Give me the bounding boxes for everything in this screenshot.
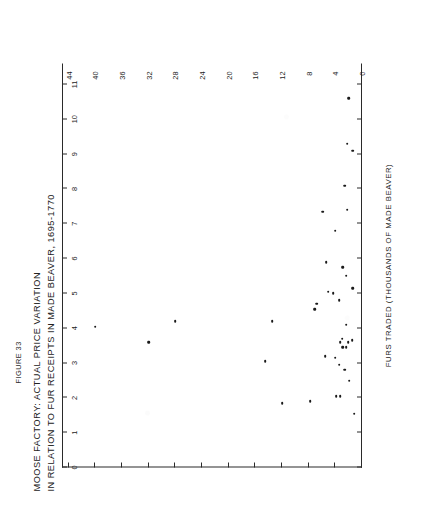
x-axis-line xyxy=(361,63,362,467)
x-tick xyxy=(357,396,362,397)
x-tick-top xyxy=(62,257,67,258)
x-tick-top xyxy=(62,362,67,363)
x-tick-top xyxy=(62,83,67,84)
data-point xyxy=(174,320,176,322)
y-tick-label: 4 xyxy=(331,71,340,75)
x-tick-top xyxy=(62,153,67,154)
scatter-plot: 01234567891011 048121620242832364044 FUR… xyxy=(62,63,362,467)
y-tick xyxy=(68,462,69,467)
y-tick-label: 28 xyxy=(171,71,180,79)
figure-container: FIGURE 33 MOOSE FACTORY: ACTUAL PRICE VA… xyxy=(0,0,434,529)
data-point xyxy=(315,302,317,304)
y-tick xyxy=(254,462,255,467)
data-point xyxy=(264,360,266,362)
data-point xyxy=(346,208,348,210)
y-tick xyxy=(334,462,335,467)
data-point xyxy=(345,274,347,276)
data-point xyxy=(339,394,341,396)
x-tick xyxy=(357,292,362,293)
data-point xyxy=(339,340,341,342)
x-tick-label: 4 xyxy=(70,326,79,330)
y-tick xyxy=(201,462,202,467)
y-tick-label: 20 xyxy=(224,71,233,79)
data-point xyxy=(309,400,311,402)
data-point xyxy=(348,379,350,381)
data-point xyxy=(351,149,353,151)
y-tick xyxy=(228,462,229,467)
y-tick-label: 36 xyxy=(118,71,127,79)
data-point xyxy=(351,286,353,288)
data-point xyxy=(94,325,96,327)
x-tick-label: 5 xyxy=(70,291,79,295)
x-tick-label: 0 xyxy=(70,465,79,469)
x-tick-label: 11 xyxy=(70,80,79,88)
data-point xyxy=(324,354,326,356)
x-tick-label: 7 xyxy=(70,221,79,225)
data-point xyxy=(147,340,149,342)
x-tick xyxy=(357,222,362,223)
data-point xyxy=(353,412,355,414)
figure-number: FIGURE 33 xyxy=(14,51,23,383)
data-point xyxy=(334,356,336,358)
figure-title-line-1: MOOSE FACTORY: ACTUAL PRICE VARIATION xyxy=(30,51,44,491)
y-tick xyxy=(281,462,282,467)
data-point xyxy=(341,266,343,268)
data-point xyxy=(335,394,337,396)
data-point xyxy=(347,97,349,99)
x-tick-top xyxy=(62,431,67,432)
x-tick xyxy=(357,327,362,328)
x-tick-label: 10 xyxy=(70,115,79,123)
data-point xyxy=(346,142,348,144)
data-point xyxy=(351,339,353,341)
data-point xyxy=(334,229,336,231)
y-tick-label: 8 xyxy=(304,71,313,75)
x-tick-top xyxy=(62,187,67,188)
data-point xyxy=(345,346,347,348)
data-point xyxy=(341,346,343,348)
data-point xyxy=(343,368,345,370)
x-tick-top xyxy=(62,327,67,328)
data-point xyxy=(338,299,340,301)
x-tick-label: 8 xyxy=(70,186,79,190)
figure-title-line-2: IN RELATION TO FUR RECEIPTS IN MADE BEAV… xyxy=(44,51,58,491)
y-tick xyxy=(121,462,122,467)
y-tick-label: 0 xyxy=(358,71,367,75)
x-axis-title: FURS TRADED (THOUSANDS OF MADE BEAVER) xyxy=(384,163,393,366)
data-point xyxy=(343,184,345,186)
x-tick-label: 9 xyxy=(70,152,79,156)
top-axis-line xyxy=(62,63,63,467)
x-tick-top xyxy=(62,466,67,467)
y-tick xyxy=(308,462,309,467)
data-point xyxy=(325,260,327,262)
x-tick-label: 1 xyxy=(70,430,79,434)
x-tick xyxy=(357,118,362,119)
x-tick xyxy=(357,153,362,154)
x-tick-top xyxy=(62,222,67,223)
data-point xyxy=(338,363,340,365)
y-tick-label: 12 xyxy=(278,71,287,79)
x-tick xyxy=(357,257,362,258)
scanned-figure-page: FIGURE 33 MOOSE FACTORY: ACTUAL PRICE VA… xyxy=(0,0,434,529)
x-tick xyxy=(357,83,362,84)
x-tick-label: 2 xyxy=(70,395,79,399)
data-point xyxy=(347,340,349,342)
y-tick-label: 44 xyxy=(64,71,73,79)
y-tick-label: 24 xyxy=(198,71,207,79)
x-tick-label: 3 xyxy=(70,360,79,364)
data-point xyxy=(281,401,283,403)
y-tick xyxy=(174,462,175,467)
x-tick-label: 6 xyxy=(70,256,79,260)
data-point xyxy=(313,307,315,309)
data-point xyxy=(332,292,334,294)
y-tick xyxy=(148,462,149,467)
x-tick xyxy=(357,431,362,432)
x-tick xyxy=(357,362,362,363)
x-tick-top xyxy=(62,118,67,119)
data-point xyxy=(321,210,323,212)
title-block: FIGURE 33 MOOSE FACTORY: ACTUAL PRICE VA… xyxy=(14,51,58,491)
y-tick-label: 16 xyxy=(251,71,260,79)
x-tick-top xyxy=(62,396,67,397)
y-tick-label: 32 xyxy=(144,71,153,79)
x-tick xyxy=(357,187,362,188)
data-point xyxy=(345,323,347,325)
